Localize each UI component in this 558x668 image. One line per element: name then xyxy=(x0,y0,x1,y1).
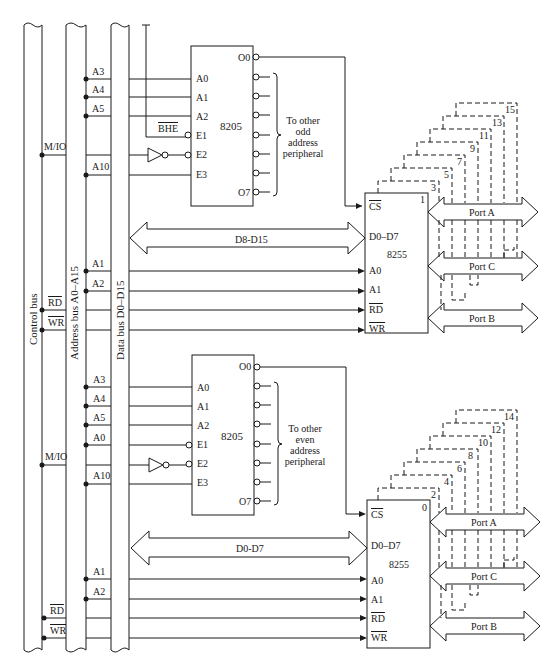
svg-text:A5: A5 xyxy=(92,103,104,114)
upper-ppi-wires: A1 A2 RD WR xyxy=(40,258,366,333)
upper-cs-wire xyxy=(259,57,362,206)
svg-text:A3: A3 xyxy=(93,374,105,385)
svg-text:RD: RD xyxy=(48,297,62,308)
address-bus: Address bus A0–A15 xyxy=(66,23,86,652)
svg-text:A0: A0 xyxy=(93,432,105,443)
svg-text:O0: O0 xyxy=(239,361,251,372)
control-bus-label: Control bus xyxy=(27,293,39,345)
svg-text:A3: A3 xyxy=(92,66,104,77)
svg-text:E2: E2 xyxy=(197,458,208,469)
svg-text:O7: O7 xyxy=(238,187,250,198)
svg-text:D0–D7: D0–D7 xyxy=(371,540,400,551)
data-bus: Data bus D0–D15 xyxy=(111,23,129,652)
svg-text:A1: A1 xyxy=(92,258,104,269)
svg-text:odd: odd xyxy=(296,126,311,137)
lower-data-arrow: D0-D7 xyxy=(131,531,367,565)
svg-text:8255: 8255 xyxy=(389,559,409,570)
svg-text:A2: A2 xyxy=(197,420,209,431)
svg-text:peripheral: peripheral xyxy=(285,456,326,467)
svg-text:address: address xyxy=(288,137,318,148)
svg-text:D0–D7: D0–D7 xyxy=(369,231,398,242)
svg-text:4: 4 xyxy=(444,476,449,487)
lower-decoder-wires: A3 A4 A5 A0 M/IO A10 xyxy=(40,374,193,487)
svg-text:A1: A1 xyxy=(197,401,209,412)
m-io-label: M/IO xyxy=(44,141,66,152)
svg-text:E3: E3 xyxy=(196,169,207,180)
svg-text:WR: WR xyxy=(371,632,387,643)
svg-text:0: 0 xyxy=(422,502,427,513)
svg-text:12: 12 xyxy=(491,424,501,435)
svg-text:A4: A4 xyxy=(93,393,105,404)
svg-text:A1: A1 xyxy=(371,594,383,605)
svg-text:A1: A1 xyxy=(196,92,208,103)
svg-text:D0-D7: D0-D7 xyxy=(236,543,264,554)
svg-text:Port B: Port B xyxy=(471,621,497,632)
upper-ppi-stack: 3 5 7 9 11 13 15 xyxy=(378,103,517,310)
svg-text:A4: A4 xyxy=(92,84,104,95)
data-bus-label: Data bus D0–D15 xyxy=(114,280,126,360)
svg-text:O0: O0 xyxy=(238,52,250,63)
svg-text:D8-D15: D8-D15 xyxy=(235,234,268,245)
upper-port-a: Port A xyxy=(469,207,496,218)
svg-text:To other: To other xyxy=(288,423,322,434)
lower-decoder-8205: 8205 A0 A1 A2 E1 E2 E3 O0 O7 xyxy=(186,355,282,515)
lower-ppi-wires: A1 A2 RD WR xyxy=(42,566,368,641)
svg-text:CS: CS xyxy=(371,509,383,520)
svg-text:To other: To other xyxy=(286,115,320,126)
svg-text:peripheral: peripheral xyxy=(283,148,324,159)
svg-text:even: even xyxy=(296,434,315,445)
upper-decoder-note: To other odd address peripheral xyxy=(283,115,324,159)
upper-port-b: Port B xyxy=(469,313,495,324)
svg-text:M/IO: M/IO xyxy=(45,451,67,462)
svg-text:RD: RD xyxy=(50,605,64,616)
svg-text:O7: O7 xyxy=(239,496,251,507)
svg-text:3: 3 xyxy=(431,182,436,193)
svg-text:E3: E3 xyxy=(197,477,208,488)
upper-decoder-wires: A3 A4 A5 BHE M/IO A10 xyxy=(40,66,192,178)
svg-text:WR: WR xyxy=(369,323,385,334)
svg-text:E1: E1 xyxy=(196,130,207,141)
svg-text:8255: 8255 xyxy=(387,249,407,260)
svg-text:E1: E1 xyxy=(197,439,208,450)
upper-data-arrow: D8-D15 xyxy=(130,222,365,254)
svg-text:15: 15 xyxy=(505,104,515,115)
svg-text:8: 8 xyxy=(468,450,473,461)
lower-ports: Port A Port C Port B xyxy=(430,507,540,641)
svg-text:11: 11 xyxy=(479,130,489,141)
svg-text:8205: 8205 xyxy=(221,430,244,442)
svg-text:5: 5 xyxy=(444,169,449,180)
svg-text:A2: A2 xyxy=(92,278,104,289)
svg-text:Port A: Port A xyxy=(471,517,498,528)
svg-text:A0: A0 xyxy=(371,575,383,586)
svg-text:10: 10 xyxy=(478,437,488,448)
decoder-8255-interface-diagram: Control bus Address bus A0–A15 Data bus … xyxy=(0,0,558,668)
svg-text:WR: WR xyxy=(50,625,66,636)
svg-text:A0: A0 xyxy=(197,382,209,393)
svg-text:A2: A2 xyxy=(93,586,105,597)
svg-text:A5: A5 xyxy=(93,412,105,423)
svg-text:A10: A10 xyxy=(93,470,110,481)
svg-text:7: 7 xyxy=(457,156,462,167)
svg-text:13: 13 xyxy=(492,117,502,128)
svg-text:A10: A10 xyxy=(92,161,109,172)
bhe-line xyxy=(146,25,188,137)
svg-text:14: 14 xyxy=(504,411,514,422)
svg-text:8205: 8205 xyxy=(220,120,243,132)
upper-port-c: Port C xyxy=(469,261,495,272)
upper-ports: Port A Port C Port B xyxy=(428,197,538,333)
svg-text:6: 6 xyxy=(457,463,462,474)
svg-text:address: address xyxy=(290,445,320,456)
svg-text:A2: A2 xyxy=(196,111,208,122)
svg-text:2: 2 xyxy=(431,489,436,500)
upper-decoder-8205: 8205 A0 A1 A2 E1 E2 E3 O0 O7 xyxy=(185,46,281,206)
svg-text:E2: E2 xyxy=(196,149,207,160)
svg-text:9: 9 xyxy=(470,143,475,154)
svg-text:1: 1 xyxy=(420,194,425,205)
svg-text:A0: A0 xyxy=(196,73,208,84)
svg-text:RD: RD xyxy=(371,613,385,624)
address-bus-label: Address bus A0–A15 xyxy=(68,265,80,360)
svg-text:Port C: Port C xyxy=(471,571,497,582)
control-bus: Control bus xyxy=(24,23,42,652)
bhe-label: BHE xyxy=(158,123,178,134)
upper-ppi-8255: CS 1 D0–D7 8255 A0 A1 RD WR xyxy=(365,193,428,334)
